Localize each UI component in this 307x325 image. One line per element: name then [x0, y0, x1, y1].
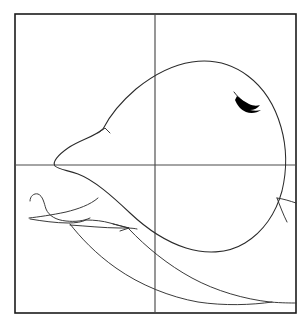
- drawing-canvas: [0, 0, 307, 325]
- line-drawing-figure: [0, 0, 307, 325]
- drawing-background: [0, 0, 307, 325]
